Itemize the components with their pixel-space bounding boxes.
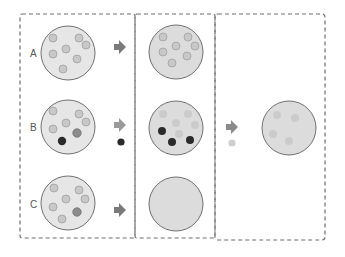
particle-faint [269,130,277,138]
particle [49,50,57,58]
particle [191,42,199,50]
arrow-right-icon [114,118,126,132]
particle-faint-added [228,139,235,146]
particle [62,119,70,127]
particle [58,215,66,223]
sample-a-treated [149,25,203,79]
diagram-canvas: A B C [0,0,345,257]
particle [82,41,90,49]
sample-b-final [262,101,316,155]
particle-faint [184,110,192,118]
particle [75,186,83,194]
particle [172,42,180,50]
sample-c-initial [41,176,95,230]
particle-medium [73,208,81,216]
particle-dark [186,136,194,144]
particle-dark [58,137,66,145]
sample-c-treated [149,177,203,231]
particle [49,125,57,133]
particle-dark-added [117,138,124,145]
particle [49,107,57,115]
sample-a-initial [41,26,95,80]
particle-dark [168,138,176,146]
particle [81,195,89,203]
particle [183,52,191,60]
particle [159,33,167,41]
particle [75,110,83,118]
particle-faint [175,130,183,138]
particle-faint [159,110,167,118]
particle [62,45,70,53]
particle [49,34,57,42]
particle [49,203,57,211]
particle [73,55,81,63]
particle [168,59,176,67]
particle [75,34,83,42]
particle-faint [172,119,180,127]
particle [184,33,192,41]
arrow-right-icon [114,203,126,217]
row-label-b: B [30,122,37,133]
particle-medium [73,129,81,137]
particle-faint [285,137,293,145]
particle-faint [291,114,299,122]
particle [50,184,58,192]
particle [59,65,67,73]
arrow-right-icon [114,40,126,54]
sample-b-treated [149,101,203,155]
particle-faint [273,111,281,119]
particle-faint [191,121,199,129]
particle [62,195,70,203]
particle [82,118,90,126]
row-label-c: C [30,199,37,210]
sample-b-initial [41,100,95,154]
particle [159,48,167,56]
row-label-a: A [30,48,37,59]
particle-dark [158,127,166,135]
arrow-right-icon [226,120,238,134]
